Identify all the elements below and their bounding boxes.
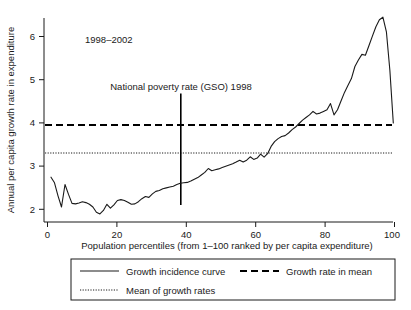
- growth-incidence-chart: 2 3 4 5 6 0 20 40 60 80 100 Po: [0, 0, 411, 310]
- x-tick-label: 60: [250, 229, 261, 240]
- x-tick-label: 0: [45, 229, 50, 240]
- x-tick-label: 100: [384, 229, 400, 240]
- period-label: 1998–2002: [85, 34, 133, 45]
- x-tick-label: 40: [181, 229, 192, 240]
- legend-label-growth-incidence-curve: Growth incidence curve: [126, 266, 225, 277]
- x-axis-ticks: 0 20 40 60 80 100: [45, 222, 400, 240]
- y-tick-label: 3: [30, 160, 35, 171]
- growth-incidence-curve: [51, 17, 393, 214]
- y-axis-title: Annual per capita growth rate in expendi…: [5, 27, 16, 213]
- y-tick-label: 2: [30, 204, 35, 215]
- x-tick-label: 20: [112, 229, 123, 240]
- x-axis-title: Population percentiles (from 1–100 ranke…: [81, 240, 373, 251]
- x-tick-label: 80: [320, 229, 331, 240]
- poverty-rate-annotation: National poverty rate (GSO) 1998: [110, 81, 252, 92]
- legend-label-growth-rate-in-mean: Growth rate in mean: [286, 266, 372, 277]
- y-axis-ticks: 2 3 4 5 6: [30, 31, 44, 215]
- legend-label-mean-of-growth-rates: Mean of growth rates: [126, 285, 215, 296]
- y-tick-label: 6: [30, 31, 35, 42]
- y-tick-label: 5: [30, 74, 35, 85]
- chart-legend: Growth incidence curve Growth rate in me…: [71, 259, 395, 300]
- chart-figure: 2 3 4 5 6 0 20 40 60 80 100 Po: [0, 0, 411, 310]
- y-tick-label: 4: [30, 117, 35, 128]
